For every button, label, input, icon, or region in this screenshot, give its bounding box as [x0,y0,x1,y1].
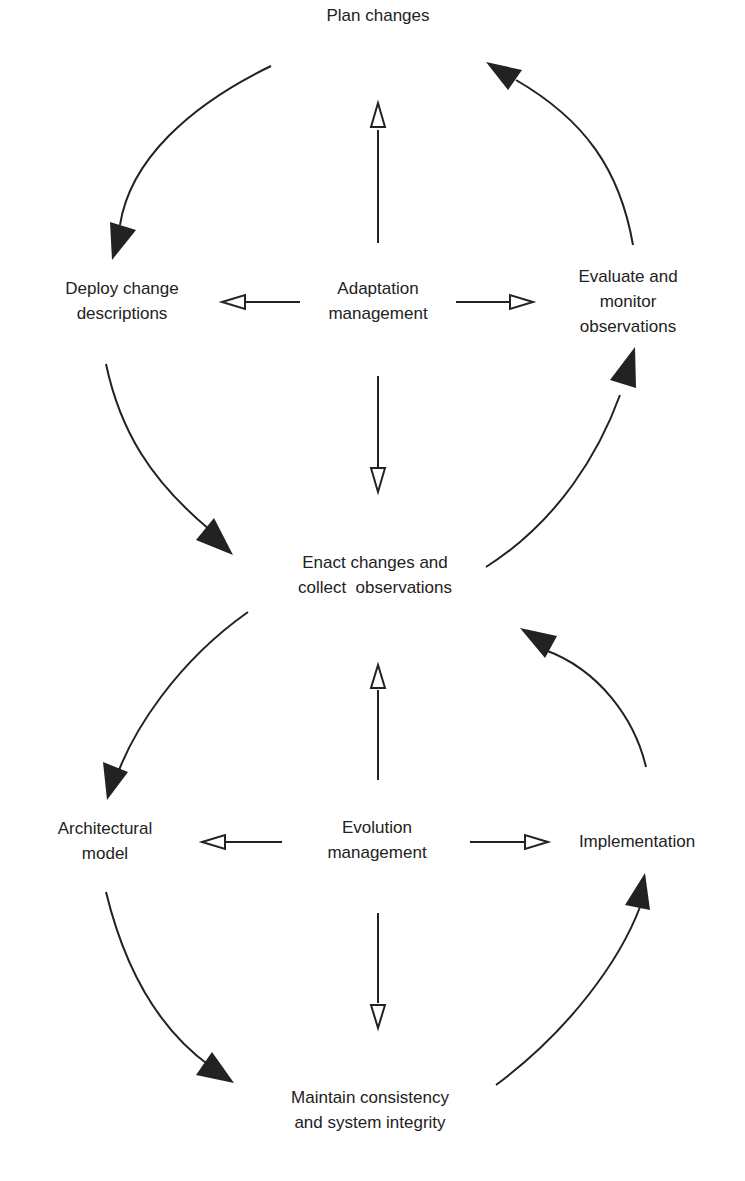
hollow-arrowhead-up [371,103,385,127]
node-evaluate-monitor-observations: Evaluate and monitor observations [578,264,677,339]
arrowhead-maintain [196,1052,234,1083]
node-deploy-change-descriptions: Deploy change descriptions [65,276,178,326]
arrow-deploy-to-enact [106,364,210,530]
arrow-enact-to-evaluate [486,395,620,567]
hollow-arrowhead-left [202,835,225,849]
arrowhead-implementation [625,873,650,910]
arrow-evaluate-to-plan [516,80,633,245]
node-maintain-consistency: Maintain consistency and system integrit… [291,1085,449,1135]
arrowhead-deploy [110,222,136,260]
node-adaptation-management: Adaptation management [328,276,427,326]
arrowhead-evaluate [610,347,636,388]
hollow-arrowhead-left [222,295,245,309]
arrowhead-architectural [103,762,128,800]
arrow-plan-to-deploy [120,66,271,225]
node-architectural-model: Architectural model [58,816,152,866]
node-plan-changes: Plan changes [326,3,429,28]
arrowhead-plan [486,62,522,90]
hollow-arrowhead-right [510,295,533,309]
node-implementation: Implementation [579,829,695,854]
node-evolution-management: Evolution management [327,815,426,865]
hollow-arrowhead-right [525,835,548,849]
arrow-enact-to-architectural [112,612,248,790]
arrow-implementation-to-enact [545,650,646,767]
hollow-arrowhead-down [371,468,385,492]
hollow-arrowhead-up [371,665,385,688]
hollow-arrowhead-down [371,1005,385,1028]
node-enact-changes: Enact changes and collect observations [298,550,452,600]
arrow-maintain-to-implementation [496,907,640,1085]
arrow-architectural-to-maintain [106,892,210,1066]
